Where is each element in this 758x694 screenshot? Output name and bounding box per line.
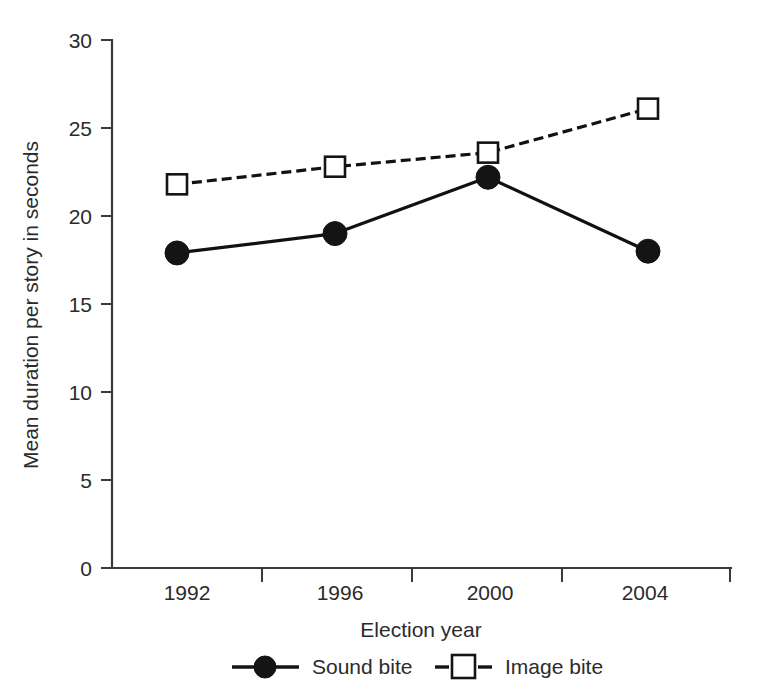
series-markers-sound-bite xyxy=(165,165,660,265)
line-chart: 30 25 20 15 10 5 0 1992 1996 2000 2004 M… xyxy=(0,0,758,694)
y-tick-label-5: 5 xyxy=(80,469,92,492)
data-point-filled-circle xyxy=(476,165,500,189)
x-tick-label-1992: 1992 xyxy=(164,581,211,604)
data-point-open-square xyxy=(167,174,187,194)
open-square-icon xyxy=(452,655,475,678)
y-tick-label-30: 30 xyxy=(69,29,92,52)
data-point-filled-circle xyxy=(323,222,347,246)
data-point-filled-circle xyxy=(636,239,660,263)
x-tick-label-2004: 2004 xyxy=(622,581,669,604)
series-line-image-bite xyxy=(177,109,648,185)
chart-canvas: 30 25 20 15 10 5 0 1992 1996 2000 2004 M… xyxy=(0,0,758,694)
legend-label-image-bite: Image bite xyxy=(505,655,603,678)
y-tick-label-0: 0 xyxy=(80,557,92,580)
x-axis-ticks xyxy=(262,568,730,582)
y-tick-label-25: 25 xyxy=(69,117,92,140)
legend-item-sound-bite[interactable]: Sound bite xyxy=(232,655,412,678)
series-image-bite xyxy=(167,99,658,195)
chart-legend: Sound bite Image bite xyxy=(232,655,603,678)
x-tick-label-2000: 2000 xyxy=(467,581,514,604)
series-sound-bite xyxy=(165,165,660,265)
legend-label-sound-bite: Sound bite xyxy=(312,655,412,678)
series-markers-image-bite xyxy=(167,99,658,195)
y-tick-label-15: 15 xyxy=(69,293,92,316)
y-tick-label-20: 20 xyxy=(69,205,92,228)
y-tick-label-10: 10 xyxy=(69,381,92,404)
y-axis-title: Mean duration per story in seconds xyxy=(19,141,42,469)
x-tick-label-1996: 1996 xyxy=(317,581,364,604)
data-point-open-square xyxy=(638,99,658,119)
x-axis-title: Election year xyxy=(360,618,481,641)
filled-circle-icon xyxy=(254,656,276,678)
series-line-sound-bite xyxy=(177,177,648,253)
y-axis-ticks xyxy=(101,40,112,568)
data-point-open-square xyxy=(478,143,498,163)
data-point-filled-circle xyxy=(165,241,189,265)
legend-item-image-bite[interactable]: Image bite xyxy=(435,655,603,678)
data-point-open-square xyxy=(325,157,345,177)
